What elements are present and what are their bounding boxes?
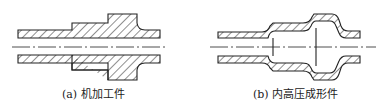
- caption-a: (a) 机加工件: [62, 85, 125, 101]
- caption-b: (b) 内高压成形件: [253, 85, 338, 101]
